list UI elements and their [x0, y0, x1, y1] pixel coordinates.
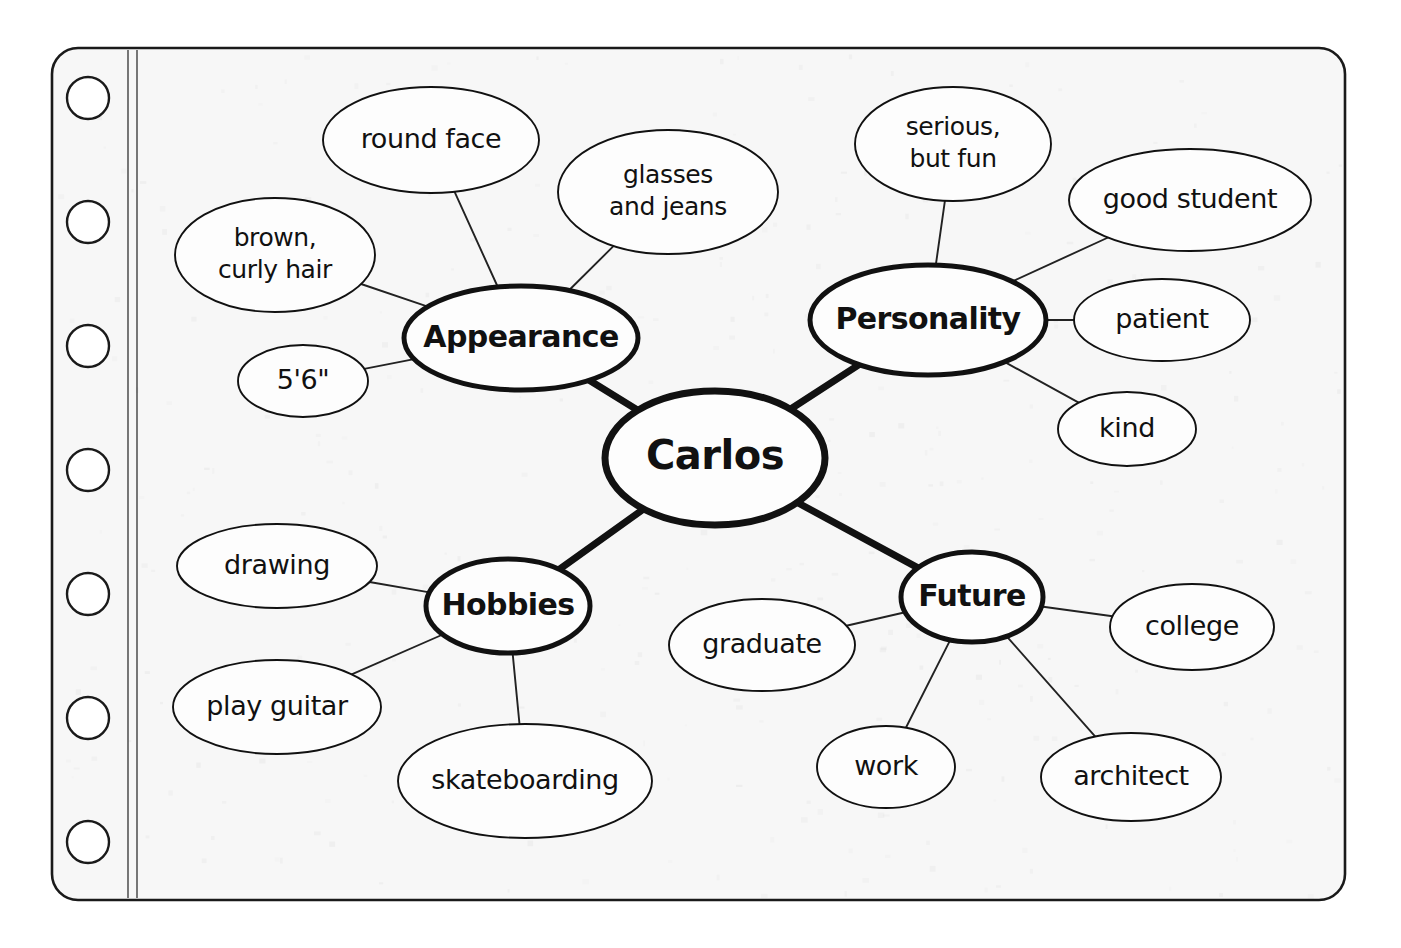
paper-texture-speck — [423, 585, 429, 590]
paper-texture-speck — [1234, 396, 1239, 402]
leaf-architect-label: architect — [1073, 760, 1189, 791]
paper-texture-speck — [1201, 112, 1207, 115]
paper-texture-speck — [667, 777, 670, 780]
paper-texture-speck — [72, 776, 74, 779]
paper-texture-speck — [181, 514, 184, 517]
paper-texture-speck — [701, 530, 708, 536]
paper-texture-speck — [66, 759, 71, 762]
leaf-round-face[interactable]: round face — [323, 87, 539, 193]
branch-future[interactable]: Future — [901, 552, 1043, 642]
leaf-architect[interactable]: architect — [1041, 733, 1221, 821]
paper-texture-speck — [1074, 685, 1079, 687]
paper-texture-speck — [1097, 531, 1103, 536]
paper-texture-speck — [600, 712, 606, 718]
branch-personality[interactable]: Personality — [810, 265, 1046, 375]
punch-hole-3 — [67, 325, 109, 367]
paper-texture-speck — [342, 502, 345, 505]
paper-texture-speck — [642, 587, 648, 590]
leaf-skateboarding-label: skateboarding — [431, 764, 619, 795]
paper-texture-speck — [799, 563, 804, 566]
paper-texture-speck — [1334, 778, 1341, 783]
paper-texture-speck — [444, 553, 447, 555]
paper-texture-speck — [1029, 459, 1033, 463]
paper-texture-speck — [258, 103, 263, 106]
paper-texture-speck — [999, 660, 1001, 665]
paper-texture-speck — [326, 461, 333, 464]
paper-texture-speck — [275, 857, 280, 862]
branch-personality-label: Personality — [835, 301, 1021, 336]
paper-texture-speck — [1135, 670, 1138, 673]
paper-texture-speck — [643, 740, 645, 746]
paper-texture-speck — [1067, 242, 1074, 245]
paper-texture-speck — [994, 528, 1000, 530]
leaf-patient[interactable]: patient — [1074, 279, 1250, 361]
paper-texture-speck — [1025, 232, 1031, 235]
paper-texture-speck — [565, 63, 568, 65]
paper-texture-speck — [342, 436, 348, 440]
paper-texture-speck — [297, 656, 302, 661]
paper-texture-speck — [929, 448, 933, 451]
leaf-brown-curly-hair-label: brown, — [234, 223, 317, 252]
paper-texture-speck — [638, 652, 643, 657]
paper-texture-speck — [1003, 380, 1009, 382]
paper-texture-speck — [1037, 644, 1043, 649]
paper-texture-speck — [1142, 570, 1144, 572]
paper-texture-speck — [392, 659, 396, 662]
leaf-skateboarding[interactable]: skateboarding — [398, 724, 652, 838]
paper-texture-speck — [1250, 738, 1253, 741]
punch-hole-4 — [67, 449, 109, 491]
branch-appearance[interactable]: Appearance — [404, 286, 638, 390]
paper-texture-speck — [993, 799, 996, 801]
leaf-drawing[interactable]: drawing — [177, 524, 377, 608]
paper-texture-speck — [145, 671, 150, 674]
paper-texture-speck — [720, 262, 722, 267]
leaf-play-guitar[interactable]: play guitar — [173, 660, 381, 754]
leaf-college[interactable]: college — [1110, 584, 1274, 670]
paper-texture-speck — [876, 718, 882, 722]
leaf-patient-label: patient — [1115, 303, 1208, 334]
leaf-graduate[interactable]: graduate — [669, 599, 855, 691]
leaf-kind[interactable]: kind — [1058, 392, 1196, 466]
paper-texture-speck — [560, 398, 564, 401]
paper-texture-speck — [1090, 481, 1093, 484]
leaf-brown-curly-hair[interactable]: brown,curly hair — [175, 198, 375, 312]
paper-texture-speck — [1153, 142, 1157, 144]
paper-texture-speck — [773, 349, 775, 354]
paper-texture-speck — [1326, 172, 1329, 174]
leaf-serious-but-fun[interactable]: serious,but fun — [855, 87, 1051, 201]
paper-texture-speck — [841, 172, 847, 174]
leaf-glasses-and-jeans[interactable]: glassesand jeans — [558, 130, 778, 254]
paper-texture-speck — [836, 213, 842, 215]
leaf-work[interactable]: work — [817, 726, 955, 808]
center-carlos[interactable]: Carlos — [605, 391, 825, 525]
paper-texture-speck — [115, 297, 121, 302]
paper-texture-speck — [916, 634, 920, 639]
paper-texture-speck — [938, 431, 941, 436]
paper-texture-speck — [601, 668, 606, 671]
paper-texture-speck — [638, 316, 645, 319]
leaf-brown-curly-hair-label: curly hair — [218, 255, 333, 284]
punch-hole-6 — [67, 697, 109, 739]
paper-texture-speck — [1109, 509, 1114, 512]
paper-texture-speck — [1233, 849, 1236, 852]
leaf-good-student[interactable]: good student — [1069, 149, 1311, 251]
paper-texture-speck — [1132, 274, 1136, 279]
paper-texture-speck — [196, 763, 201, 768]
paper-texture-speck — [845, 891, 847, 897]
paper-texture-speck — [1322, 486, 1324, 490]
paper-texture-speck — [668, 860, 673, 863]
paper-texture-speck — [773, 223, 777, 227]
paper-texture-speck — [273, 142, 277, 145]
paper-texture-speck — [162, 229, 167, 235]
paper-texture-speck — [168, 790, 173, 795]
leaf-college-label: college — [1145, 610, 1239, 641]
branch-hobbies[interactable]: Hobbies — [426, 559, 590, 653]
leaf-height[interactable]: 5'6" — [238, 345, 368, 417]
paper-texture-speck — [898, 423, 904, 428]
paper-texture-speck — [447, 62, 451, 65]
paper-texture-speck — [379, 882, 383, 884]
punch-hole-1 — [67, 77, 109, 119]
paper-texture-speck — [979, 700, 985, 705]
paper-texture-speck — [888, 630, 893, 635]
leaf-drawing-label: drawing — [224, 549, 330, 580]
